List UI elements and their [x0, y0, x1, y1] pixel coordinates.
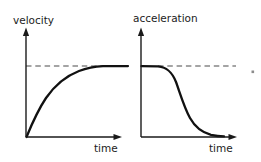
acceleration-y-axis-label: acceleration: [133, 12, 198, 24]
acceleration-x-axis-arrow-icon: [229, 134, 238, 140]
velocity-panel: velocity time: [13, 14, 128, 154]
velocity-y-axis-label: velocity: [13, 14, 54, 26]
scan-artifact-mark: [252, 71, 255, 74]
acceleration-curve: [142, 66, 225, 136]
velocity-x-axis-label: time: [94, 142, 118, 154]
figure-canvas: velocity time acceleration time: [0, 0, 261, 162]
acceleration-x-axis-label: time: [209, 142, 233, 154]
velocity-y-axis-arrow-icon: [23, 28, 29, 37]
velocity-curve: [27, 66, 129, 137]
acceleration-y-axis-arrow-icon: [138, 28, 144, 37]
acceleration-panel: acceleration time: [133, 12, 237, 154]
physics-graph-figure: velocity time acceleration time: [0, 0, 261, 162]
velocity-x-axis-arrow-icon: [114, 134, 123, 140]
